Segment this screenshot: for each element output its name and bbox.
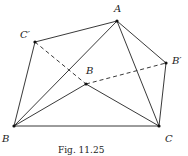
figure-caption: Fig. 11.25 xyxy=(58,145,105,155)
geometry-figure: A B′ C′ B B C Fig. 11.25 xyxy=(0,0,188,156)
diagram-canvas: A B′ C′ B B C Fig. 11.25 xyxy=(0,0,188,156)
segment-b-inner xyxy=(14,84,86,126)
segment-b-cprime xyxy=(14,42,35,126)
point-inner-b xyxy=(84,82,87,85)
point-b xyxy=(12,124,15,127)
label-cprime: C′ xyxy=(20,29,31,40)
point-a xyxy=(115,19,118,22)
label-c: C xyxy=(165,133,173,144)
label-a: A xyxy=(113,3,121,14)
label-bprime: B′ xyxy=(171,55,182,66)
segment-a-c xyxy=(117,21,159,126)
dashed-cprime-inner xyxy=(35,42,86,84)
label-b: B xyxy=(1,133,9,144)
segment-inner-c xyxy=(86,84,159,126)
point-bprime xyxy=(164,61,167,64)
segment-cprime-a xyxy=(35,21,117,42)
segment-bprime-c xyxy=(159,63,166,126)
label-inner-b: B xyxy=(85,65,93,76)
point-cprime xyxy=(33,40,36,43)
dashed-inner-bprime xyxy=(86,63,166,84)
segment-a-bprime xyxy=(117,21,166,63)
point-c xyxy=(157,124,160,127)
